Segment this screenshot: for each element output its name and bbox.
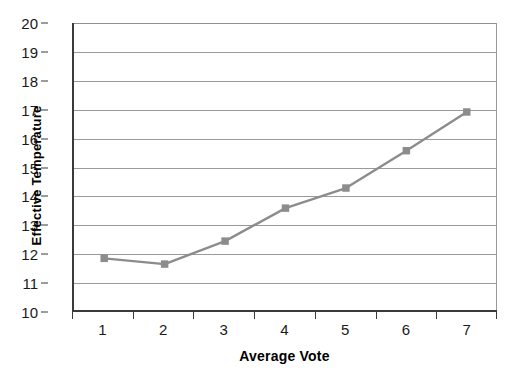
data-point-marker	[403, 147, 410, 154]
data-point-marker	[282, 204, 289, 211]
data-point-marker	[100, 255, 107, 262]
y-axis-tick-label: 19	[21, 44, 38, 59]
y-axis-tick-mark	[41, 312, 48, 313]
data-point-marker	[161, 260, 168, 267]
y-axis-title: Effective Temperature	[29, 66, 44, 286]
x-axis-tick-mark	[496, 312, 497, 319]
x-axis-tick-labels: 1234567	[72, 322, 497, 344]
x-axis-tick-label: 1	[98, 322, 106, 337]
x-axis-tick-label: 5	[341, 322, 349, 337]
x-axis-tick-mark	[72, 312, 73, 319]
line-chart: 1011121314151617181920 Effective Tempera…	[0, 0, 524, 376]
x-axis-tick-mark	[315, 312, 316, 319]
x-axis-tick-mark	[436, 312, 437, 319]
data-point-marker	[463, 108, 470, 115]
data-point-marker	[221, 237, 228, 244]
x-axis-tick-mark	[254, 312, 255, 319]
y-axis-tick-mark	[41, 51, 48, 52]
data-point-marker	[342, 184, 349, 191]
y-axis-tick-label: 20	[21, 16, 38, 31]
series-markers	[100, 108, 470, 268]
series-effective-temperature	[74, 23, 497, 310]
x-axis-tick-label: 7	[462, 322, 470, 337]
x-axis-tick-label: 6	[402, 322, 410, 337]
x-axis-tick-mark	[193, 312, 194, 319]
y-axis-tick-label: 10	[21, 305, 38, 320]
x-axis-tick-marks	[72, 312, 497, 320]
x-axis-tick-label: 3	[220, 322, 228, 337]
x-axis-tick-mark	[376, 312, 377, 319]
x-axis-tick-label: 2	[159, 322, 167, 337]
y-axis-tick-mark	[41, 23, 48, 24]
plot-area	[72, 23, 497, 312]
series-line	[104, 112, 467, 264]
x-axis-tick-mark	[133, 312, 134, 319]
x-axis-title: Average Vote	[72, 348, 497, 364]
x-axis-tick-label: 4	[280, 322, 288, 337]
